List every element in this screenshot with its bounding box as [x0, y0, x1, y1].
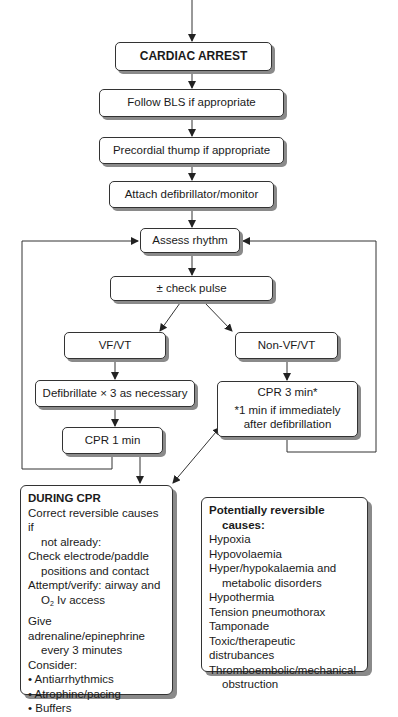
cause-kalaemia-cont: metabolic disorders: [209, 576, 360, 591]
during-cpr-bullet-antiarrhythmics: • Antiarrhythmics: [28, 672, 165, 687]
cardiac-arrest-box: CARDIAC ARREST: [115, 42, 272, 71]
follow-bls-label: Follow BLS if appropriate: [127, 96, 255, 110]
attach-defibrillator-box: Attach defibrillator/monitor: [109, 181, 274, 208]
cause-hypothermia: Hypothermia: [209, 590, 360, 605]
cause-tension-pneumothorax: Tension pneumothorax: [209, 605, 360, 620]
non-vf-vt-box: Non-VF/VT: [235, 332, 338, 359]
vf-vt-box: VF/VT: [64, 332, 166, 359]
cardiac-arrest-label: CARDIAC ARREST: [140, 49, 248, 63]
cause-hypoxia: Hypoxia: [209, 532, 360, 547]
precordial-thump-box: Precordial thump if appropriate: [99, 137, 284, 164]
defibrillate-box: Defibrillate × 3 as necessary: [35, 380, 195, 407]
check-pulse-label: ± check pulse: [156, 282, 226, 296]
defibrillate-label: Defibrillate × 3 as necessary: [43, 387, 188, 401]
check-pulse-box: ± check pulse: [110, 276, 273, 301]
reversible-causes-panel: Potentially reversible causes: Hypoxia H…: [201, 497, 368, 672]
during-cpr-bullet-atrophine: • Atrophine/pacing: [28, 687, 165, 702]
cpr-3-min-label: CPR 3 min*: [257, 386, 317, 400]
cause-thromboembolic: Thromboembolic/mechanical: [209, 663, 360, 678]
during-cpr-panel: DURING CPR Correct reversible causes if …: [20, 485, 173, 695]
cause-toxic: Toxic/therapeutic distrubances: [209, 634, 360, 663]
cause-thromboembolic-cont: obstruction: [209, 677, 360, 692]
during-cpr-item3: Attempt/verify: airway and: [28, 578, 165, 593]
follow-bls-box: Follow BLS if appropriate: [99, 89, 284, 117]
non-vf-vt-label: Non-VF/VT: [258, 339, 316, 353]
cause-hypovolaemia: Hypovolaemia: [209, 547, 360, 562]
cpr-1-min-box: CPR 1 min: [62, 427, 163, 454]
cpr-3-min-box: CPR 3 min* *1 min if immediately after d…: [217, 381, 358, 437]
assess-rhythm-label: Assess rhythm: [152, 234, 227, 248]
iv-access-text: Iv access: [54, 594, 105, 606]
attach-defibrillator-label: Attach defibrillator/monitor: [125, 188, 259, 202]
cause-kalaemia: Hyper/hypokalaemia and: [209, 561, 360, 576]
during-cpr-item2: Check electrode/paddle: [28, 549, 165, 564]
during-cpr-item1: Correct reversible causes if: [28, 506, 165, 535]
cpr-3-min-note-line1: *1 min if immediately: [234, 404, 340, 418]
during-cpr-item1-cont: not already:: [28, 535, 165, 550]
cardiac-arrest-algorithm: CARDIAC ARREST Follow BLS if appropriate…: [0, 0, 398, 717]
during-cpr-item2-cont: positions and contact: [28, 564, 165, 579]
cpr-3-min-note-line2: after defibrillation: [244, 418, 332, 432]
o2-symbol: O: [41, 594, 50, 606]
during-cpr-item4-cont: every 3 minutes: [28, 643, 165, 658]
during-cpr-heading: DURING CPR: [28, 491, 165, 506]
reversible-causes-heading-cont: causes:: [209, 518, 360, 533]
assess-rhythm-box: Assess rhythm: [140, 228, 240, 253]
vf-vt-label: VF/VT: [99, 339, 132, 353]
during-cpr-bullet-buffers: • Buffers: [28, 701, 165, 716]
cpr-1-min-label: CPR 1 min: [85, 434, 141, 448]
during-cpr-consider: Consider:: [28, 658, 165, 673]
cause-tamponade: Tamponade: [209, 619, 360, 634]
during-cpr-item3-cont: O2 Iv access: [28, 593, 165, 612]
reversible-causes-heading: Potentially reversible: [209, 503, 360, 518]
during-cpr-item4: Give adrenaline/epinephrine: [28, 614, 165, 643]
precordial-thump-label: Precordial thump if appropriate: [113, 144, 270, 158]
